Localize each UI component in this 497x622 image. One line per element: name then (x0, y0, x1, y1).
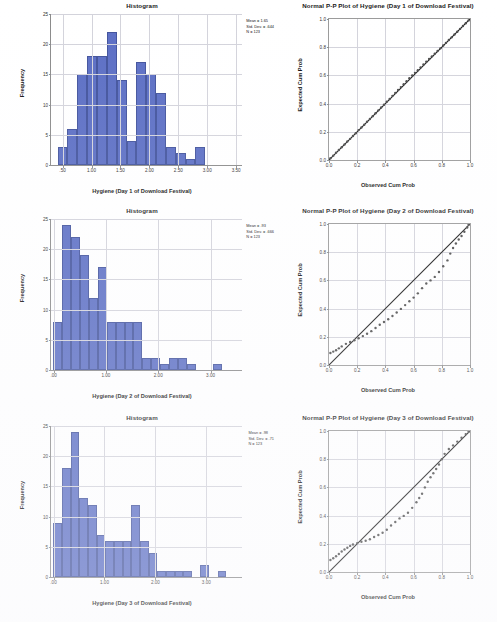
histogram-bar (62, 225, 71, 370)
histogram-bar (62, 468, 71, 577)
reference-line (329, 224, 470, 365)
x-tick-label: 1.00 (87, 168, 96, 173)
data-point (400, 308, 402, 310)
data-point (346, 547, 348, 549)
y-tick-mark (49, 426, 52, 427)
histogram-bar (53, 523, 62, 577)
y-tick-mark (49, 340, 52, 341)
gridline-horizontal (51, 456, 242, 457)
histogram-bar (195, 147, 205, 165)
data-point (458, 238, 460, 240)
data-point (353, 339, 355, 341)
x-tick-label: 0.4 (382, 368, 388, 373)
data-point (374, 327, 376, 329)
x-tick-label: 0.6 (410, 368, 416, 373)
data-point (329, 157, 331, 159)
x-tick-label: 0.2 (354, 368, 360, 373)
data-point (438, 271, 440, 273)
histogram-bar (71, 237, 80, 370)
data-point (362, 335, 364, 337)
pp-plot-day3-title: Normal P-P Plot of Hygiene (Day 3 of Dow… (282, 414, 494, 421)
histogram-bar (97, 56, 107, 165)
histogram-bar (88, 505, 97, 577)
data-point (338, 553, 340, 555)
histogram-bar (176, 153, 186, 165)
data-point (345, 343, 347, 345)
gridline-horizontal (51, 135, 242, 136)
data-point (381, 532, 383, 534)
y-tick-label: 25 (43, 424, 48, 429)
data-point (357, 129, 359, 131)
x-tick-label: 0.4 (382, 163, 388, 168)
x-tick-label: 2.00 (154, 373, 163, 378)
pp-plot-day1: Normal P-P Plot of Hygiene (Day 1 of Dow… (282, 0, 494, 202)
data-point (427, 481, 429, 483)
gridline-horizontal (51, 74, 242, 75)
data-point (360, 126, 362, 128)
data-point (349, 341, 351, 343)
histogram-day2-n: N = 123 (246, 234, 274, 240)
data-point (391, 315, 393, 317)
y-tick-label: 0.2 (320, 541, 326, 546)
gridline-horizontal (51, 105, 242, 106)
data-point (366, 332, 368, 334)
y-tick-label: 0.8 (320, 45, 326, 50)
data-point (465, 22, 467, 24)
data-point (408, 77, 410, 79)
x-tick-label: 0.8 (439, 368, 445, 373)
data-point (434, 276, 436, 278)
data-point (408, 300, 410, 302)
gridline-vertical (149, 14, 150, 165)
data-point (415, 501, 417, 503)
data-point (453, 33, 455, 35)
data-point (386, 529, 388, 531)
histogram-day2-ylabel: Frequency (19, 258, 25, 318)
data-point (459, 28, 461, 30)
y-tick-label: 0.8 (320, 250, 326, 255)
data-point (414, 72, 416, 74)
gridline-horizontal (51, 547, 242, 548)
histogram-bar (80, 255, 89, 370)
pp-plot-day3-ylabel: Expected Cum Prob (297, 467, 303, 527)
y-tick-label: 0.2 (320, 129, 326, 134)
data-point (352, 135, 354, 137)
histogram-day3-plot-area: 0510152025.001.002.003.00 (50, 426, 242, 578)
data-point (442, 265, 444, 267)
x-tick-label: 0.2 (354, 163, 360, 168)
data-point (370, 330, 372, 332)
histogram-bar (157, 571, 166, 577)
gridline-vertical (158, 219, 159, 370)
y-tick-mark (49, 105, 52, 106)
data-point (405, 80, 407, 82)
data-point (394, 521, 396, 523)
data-point (460, 235, 462, 237)
gridline-vertical (206, 426, 207, 577)
histogram-bar (131, 505, 140, 577)
y-tick-label: 0.6 (320, 278, 326, 283)
y-tick-label: 0 (45, 368, 48, 373)
y-tick-label: 0.8 (320, 457, 326, 462)
y-tick-label: 10 (43, 514, 48, 519)
histogram-bar (183, 571, 192, 577)
x-tick-label: 0.6 (410, 163, 416, 168)
gridline-horizontal (51, 219, 242, 220)
data-point (421, 287, 423, 289)
data-point (387, 318, 389, 320)
histogram-day3-ylabel: Frequency (19, 465, 25, 525)
histogram-bar (166, 571, 175, 577)
histogram-bar (127, 141, 137, 165)
data-point (442, 44, 444, 46)
data-point (340, 345, 342, 347)
data-point (386, 100, 388, 102)
histogram-bar (178, 358, 187, 370)
gridline-horizontal (51, 44, 242, 45)
gridline-vertical (120, 14, 121, 165)
data-point (363, 124, 365, 126)
x-tick-label: 3.00 (203, 168, 212, 173)
data-point (412, 296, 414, 298)
y-tick-mark (49, 547, 52, 548)
data-point (383, 321, 385, 323)
data-point (448, 448, 450, 450)
y-tick-label: 0.6 (320, 73, 326, 78)
gridline-vertical (54, 426, 55, 577)
